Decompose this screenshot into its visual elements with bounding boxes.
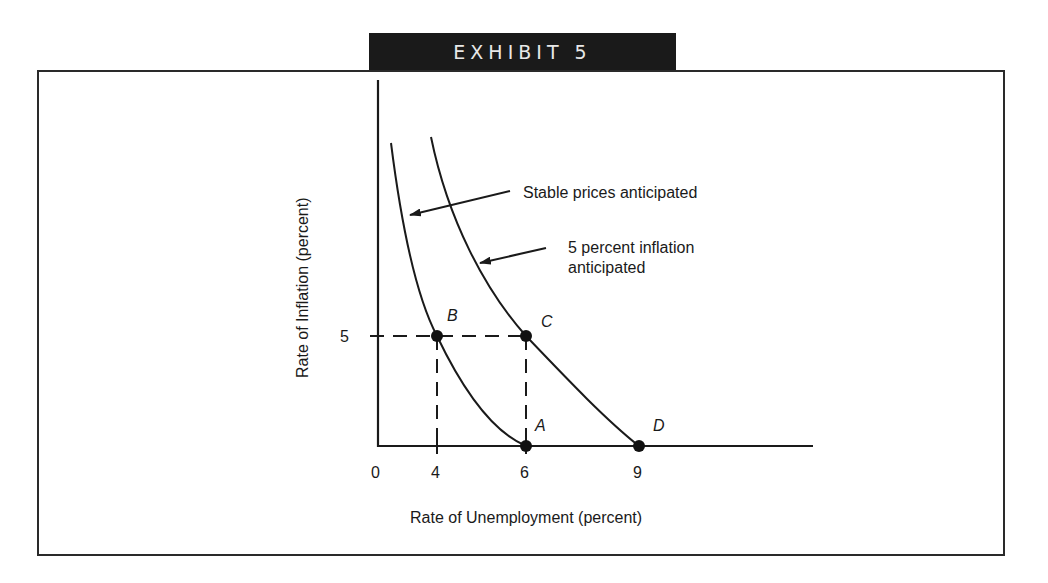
tick-label-x4: 4 — [431, 464, 440, 481]
phillips-curve-chart: Stable prices anticipated 5 percent infl… — [0, 0, 1048, 583]
label-point-d: D — [653, 417, 665, 434]
x-axis-title: Rate of Unemployment (percent) — [410, 509, 642, 526]
curve-stable-prices — [391, 143, 526, 446]
point-d — [633, 440, 645, 452]
point-a — [520, 440, 532, 452]
annotation-stable-prices: Stable prices anticipated — [523, 184, 697, 201]
tick-label-y5: 5 — [340, 328, 349, 345]
label-point-b: B — [447, 307, 458, 324]
point-c — [520, 330, 532, 342]
annotation-5pct-line2: anticipated — [568, 259, 645, 276]
label-point-c: C — [541, 313, 553, 330]
tick-label-x6: 6 — [520, 464, 529, 481]
annotation-5pct-line1: 5 percent inflation — [568, 239, 694, 256]
y-axis-title: Rate of Inflation (percent) — [294, 197, 311, 378]
arrow-stable-prices — [410, 191, 510, 215]
tick-label-x9: 9 — [633, 464, 642, 481]
label-point-a: A — [534, 417, 546, 434]
point-b — [431, 330, 443, 342]
tick-label-x0: 0 — [371, 464, 380, 481]
arrow-5pct-inflation — [480, 248, 546, 263]
